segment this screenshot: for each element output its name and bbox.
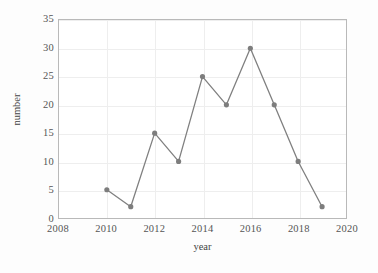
data-point-marker bbox=[296, 159, 301, 164]
line-series bbox=[59, 20, 346, 218]
y-tick-label: 30 bbox=[14, 43, 54, 53]
x-tick-label: 2008 bbox=[35, 223, 81, 234]
data-point-marker bbox=[320, 204, 325, 209]
x-tick-label: 2010 bbox=[83, 223, 129, 234]
x-tick-label: 2020 bbox=[324, 223, 370, 234]
data-point-marker bbox=[224, 102, 229, 107]
data-point-marker bbox=[272, 102, 277, 107]
y-tick-label: 5 bbox=[14, 185, 54, 195]
y-axis-title: number bbox=[11, 75, 22, 145]
data-point-marker bbox=[104, 187, 109, 192]
x-tick-label: 2016 bbox=[228, 223, 274, 234]
x-tick-label: 2014 bbox=[180, 223, 226, 234]
data-point-marker bbox=[200, 74, 205, 79]
data-point-marker bbox=[176, 159, 181, 164]
x-axis-tick-labels: 2008201020122014201620182020 bbox=[58, 223, 347, 237]
y-tick-label: 10 bbox=[14, 157, 54, 167]
series-line bbox=[107, 48, 322, 206]
x-axis-title: year bbox=[58, 241, 347, 252]
x-tick-label: 2018 bbox=[276, 223, 322, 234]
data-point-marker bbox=[248, 46, 253, 51]
data-point-marker bbox=[152, 131, 157, 136]
plot-area bbox=[58, 19, 347, 219]
data-point-marker bbox=[128, 204, 133, 209]
x-tick-label: 2012 bbox=[131, 223, 177, 234]
y-tick-label: 35 bbox=[14, 14, 54, 24]
chart-figure: 05101520253035 2008201020122014201620182… bbox=[0, 0, 378, 273]
